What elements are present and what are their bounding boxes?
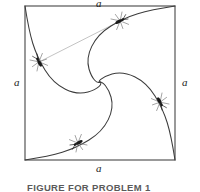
figure-container: a a a a FIGURE FOR PROBLEM 1 [0,0,200,192]
bug-left [28,51,49,72]
bug-bottom [67,133,88,154]
bug-right [150,92,171,113]
bounding-square [25,6,175,160]
side-label-left: a [14,77,20,88]
side-label-right: a [182,77,188,88]
side-label-top: a [96,0,102,9]
pursuit-spiral-from-bottom-left [25,82,112,160]
pursuit-spiral-from-bottom-right [99,73,175,160]
pursuit-spiral-from-top-right [88,6,175,82]
bug-top [110,10,131,31]
pursuit-spiral-group [25,6,175,160]
side-label-bottom: a [96,163,102,174]
figure-caption: FIGURE FOR PROBLEM 1 [27,182,197,192]
pursuit-sight-line [39,21,120,62]
